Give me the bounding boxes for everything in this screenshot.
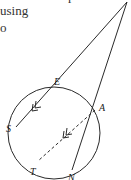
secant-circle-diagram: E A S T N: [0, 0, 131, 180]
parallel-arrow-icon-SE: [32, 101, 41, 111]
circle: [8, 87, 100, 179]
secant-line-apex-N: [72, 2, 127, 170]
parallel-arrow-icon-AT: [63, 128, 72, 138]
label-E: E: [53, 76, 60, 87]
label-N: N: [67, 172, 76, 180]
label-A: A: [98, 102, 106, 113]
dashed-chord-A-T: [38, 110, 95, 161]
label-S: S: [6, 123, 11, 134]
